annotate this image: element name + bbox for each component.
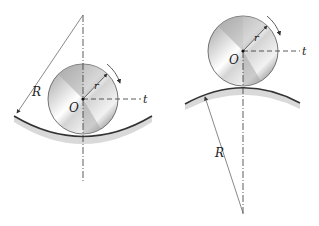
center-point-left <box>81 97 84 100</box>
concave-track-figure: R r t O <box>14 15 152 182</box>
label-t-right: t <box>302 45 307 58</box>
label-O-right: O <box>229 53 239 67</box>
label-R-left: R <box>31 85 41 99</box>
convex-track-shading <box>185 88 300 110</box>
label-t-left: t <box>143 93 148 106</box>
label-O-left: O <box>69 101 79 115</box>
diagram-canvas: R r t O R r <box>0 0 319 226</box>
label-R-right: R <box>214 146 224 160</box>
convex-track-figure: R r t O <box>185 16 307 215</box>
center-point-right <box>241 49 244 52</box>
